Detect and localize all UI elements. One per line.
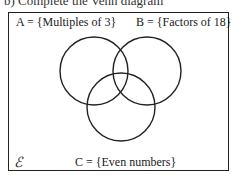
set-a-circle: [60, 37, 128, 105]
set-a-label: A = {Multiples of 3}: [16, 15, 116, 30]
set-b-label: B = {Factors of 18}: [136, 15, 232, 30]
set-b-circle: [113, 37, 181, 105]
set-c-label: C = {Even numbers}: [75, 155, 176, 170]
universal-set-symbol: ℰ: [14, 154, 22, 171]
set-c-circle: [87, 73, 155, 141]
